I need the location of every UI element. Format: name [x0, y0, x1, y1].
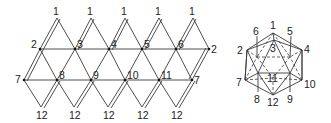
net-label-bottom: 12	[36, 109, 48, 121]
net-label-bottom: 12	[137, 109, 149, 121]
net-label-upper: 4	[111, 38, 117, 50]
icosahedron-solid: 1 2 3 4 5 6 7 8 9 10 11 12	[236, 19, 316, 108]
net-label-bottom: 12	[69, 109, 81, 121]
net-label-lower: 9	[93, 69, 99, 81]
net-label-lower: 7	[15, 73, 21, 85]
solid-label-11: 11	[267, 72, 278, 84]
net-label-lower: 8	[59, 69, 65, 81]
solid-labels: 1 2 3 4 5 6 7 8 9 10 11 12	[236, 19, 316, 108]
net-label-upper: 2	[31, 38, 37, 50]
solid-label-4: 4	[304, 43, 310, 55]
net-label-upper: 2	[211, 43, 217, 55]
net-label-upper: 5	[144, 38, 150, 50]
solid-label-12: 12	[267, 96, 279, 108]
solid-label-3: 3	[270, 42, 276, 54]
net-label-bottom: 12	[171, 109, 183, 121]
icosahedron-net: 1 1 1 1 1 2 3 4 5 6 2 7 8 9 10 11 7 12 1…	[15, 5, 217, 121]
net-label-upper: 6	[178, 38, 184, 50]
net-label-top: 1	[87, 5, 93, 17]
solid-label-2: 2	[237, 44, 243, 56]
solid-label-10: 10	[304, 78, 316, 90]
solid-label-6: 6	[253, 25, 259, 37]
net-label-lower: 10	[127, 69, 139, 81]
solid-label-8: 8	[254, 93, 260, 105]
net-label-top: 1	[155, 5, 161, 17]
net-label-top: 1	[189, 5, 195, 17]
net-middle-band	[24, 48, 209, 81]
solid-label-9: 9	[287, 93, 293, 105]
net-label-lower: 11	[161, 69, 172, 81]
net-label-lower: 7	[194, 74, 200, 86]
diagram-canvas: 1 1 1 1 1 2 3 4 5 6 2 7 8 9 10 11 7 12 1…	[0, 0, 331, 123]
solid-label-5: 5	[287, 25, 293, 37]
net-label-upper: 3	[77, 38, 83, 50]
net-label-bottom: 12	[103, 109, 115, 121]
net-label-top: 1	[121, 5, 127, 17]
net-bottom-row	[24, 80, 195, 108]
solid-label-1: 1	[270, 19, 276, 31]
solid-label-7: 7	[236, 76, 242, 88]
net-label-top: 1	[53, 5, 59, 17]
